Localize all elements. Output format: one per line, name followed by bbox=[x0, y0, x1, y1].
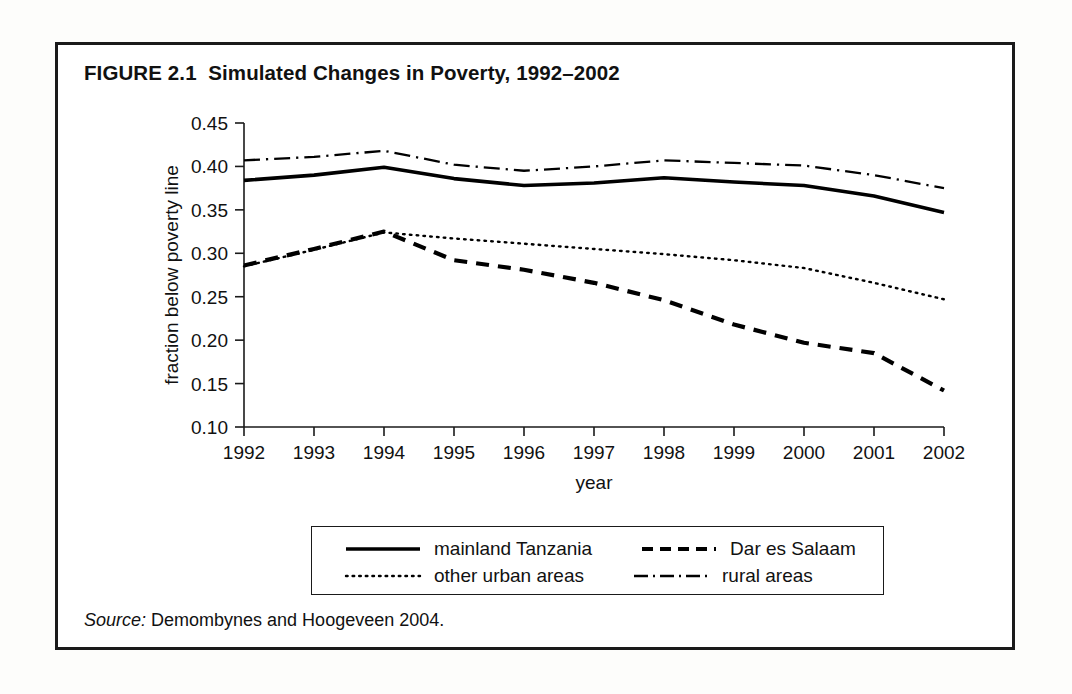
legend-row-top: mainland Tanzania Dar es Salaam bbox=[344, 536, 856, 562]
x-tick-label: 2000 bbox=[783, 442, 825, 463]
dash-dot-line-icon bbox=[632, 568, 710, 584]
legend-label-rural-areas: rural areas bbox=[722, 565, 813, 587]
legend-entry-dar-es-salaam[interactable]: Dar es Salaam bbox=[640, 538, 856, 560]
legend-label-mainland-tanzania: mainland Tanzania bbox=[434, 538, 592, 560]
y-tick-label: 0.45 bbox=[191, 113, 228, 134]
series-dar-es-salaam bbox=[244, 232, 944, 391]
y-tick-label: 0.35 bbox=[191, 200, 228, 221]
legend-label-other-urban-areas: other urban areas bbox=[434, 565, 584, 587]
x-tick-label: 2002 bbox=[923, 442, 965, 463]
figure-frame: FIGURE 2.1 Simulated Changes in Poverty,… bbox=[55, 42, 1015, 650]
legend-label-dar-es-salaam: Dar es Salaam bbox=[730, 538, 856, 560]
y-tick-label: 0.15 bbox=[191, 374, 228, 395]
y-tick-label: 0.10 bbox=[191, 417, 228, 438]
chart-legend: mainland Tanzania Dar es Salaam other ur… bbox=[311, 526, 884, 595]
x-tick-label: 2001 bbox=[853, 442, 895, 463]
chart-axis-labels: 0.100.150.200.250.300.350.400.4519921993… bbox=[161, 113, 965, 493]
y-tick-label: 0.40 bbox=[191, 156, 228, 177]
series-mainland-tanzania bbox=[244, 167, 944, 212]
x-tick-label: 1997 bbox=[573, 442, 615, 463]
source-text: Demombynes and Hoogeveen 2004. bbox=[146, 610, 444, 630]
x-tick-label: 1992 bbox=[223, 442, 265, 463]
x-tick-label: 1993 bbox=[293, 442, 335, 463]
y-tick-label: 0.20 bbox=[191, 330, 228, 351]
source-note: Source: Demombynes and Hoogeveen 2004. bbox=[84, 610, 444, 631]
y-tick-label: 0.25 bbox=[191, 287, 228, 308]
legend-entry-rural-areas[interactable]: rural areas bbox=[632, 565, 813, 587]
x-tick-label: 1995 bbox=[433, 442, 475, 463]
x-tick-label: 1996 bbox=[503, 442, 545, 463]
dotted-line-icon bbox=[344, 568, 422, 584]
series-other-urban-areas bbox=[244, 232, 944, 299]
x-tick-label: 1998 bbox=[643, 442, 685, 463]
y-tick-label: 0.30 bbox=[191, 243, 228, 264]
legend-entry-mainland-tanzania[interactable]: mainland Tanzania bbox=[344, 538, 592, 560]
dashed-line-icon bbox=[640, 541, 718, 557]
y-axis-title: fraction below poverty line bbox=[161, 165, 182, 385]
x-axis-title: year bbox=[576, 472, 614, 493]
x-tick-label: 1994 bbox=[363, 442, 406, 463]
source-keyword: Source: bbox=[84, 610, 146, 630]
chart-series bbox=[244, 151, 944, 391]
solid-line-icon bbox=[344, 541, 422, 557]
x-tick-label: 1999 bbox=[713, 442, 755, 463]
legend-entry-other-urban-areas[interactable]: other urban areas bbox=[344, 565, 584, 587]
legend-row-bottom: other urban areas rural areas bbox=[344, 563, 813, 589]
